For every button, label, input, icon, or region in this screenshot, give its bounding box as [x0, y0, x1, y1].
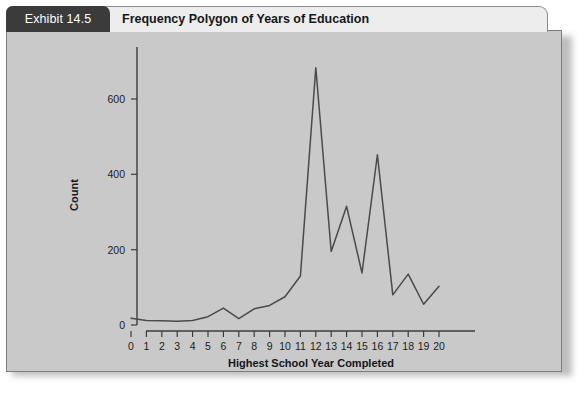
x-axis-tick-label: 10 [279, 340, 291, 352]
x-axis-tick-label: 17 [387, 340, 399, 352]
y-axis-tick-label: 0 [119, 319, 125, 331]
exhibit-number-tab: Exhibit 14.5 [6, 6, 110, 32]
x-axis-tick-label: 8 [251, 340, 257, 352]
exhibit-number-label: Exhibit 14.5 [25, 12, 92, 26]
x-axis-tick-label: 5 [205, 340, 211, 352]
x-axis-title: Highest School Year Completed [228, 357, 394, 369]
x-axis-tick-label: 14 [341, 340, 353, 352]
x-axis-tick-label: 9 [267, 340, 273, 352]
x-axis-tick-label: 16 [372, 340, 384, 352]
x-axis-tick-label: 3 [174, 340, 180, 352]
x-axis-tick-label: 20 [433, 340, 445, 352]
x-axis-tick-label: 1 [143, 340, 149, 352]
x-axis-tick-label: 13 [325, 340, 337, 352]
x-axis-tick-label: 19 [418, 340, 430, 352]
y-axis-title: Count [68, 179, 80, 211]
x-axis-tick-label: 0 [128, 340, 134, 352]
x-axis-tick-label: 2 [159, 340, 165, 352]
y-axis-tick-label: 400 [107, 168, 125, 180]
y-axis-tick-label: 200 [107, 244, 125, 256]
x-axis-group: 01234567891011121314151617181920 Highest… [128, 331, 475, 369]
y-axis-ticks: 0200400600 [107, 93, 137, 331]
x-axis-tick-label: 15 [356, 340, 368, 352]
frequency-polygon-line [131, 68, 439, 321]
y-axis-group: 0200400600 Count [68, 47, 137, 331]
frequency-polygon-chart: 0200400600 Count 01234567891011121314151… [6, 30, 562, 372]
x-axis-tick-label: 12 [310, 340, 322, 352]
exhibit-title: Frequency Polygon of Years of Education [122, 6, 369, 32]
y-axis-tick-label: 600 [107, 93, 125, 105]
x-axis-tick-label: 6 [220, 340, 226, 352]
chart-plot-area: 0200400600 Count 01234567891011121314151… [6, 30, 562, 372]
x-axis-tick-label: 4 [190, 340, 196, 352]
exhibit-figure: Exhibit 14.5 Frequency Polygon of Years … [0, 0, 579, 405]
x-axis-ticks: 01234567891011121314151617181920 [128, 331, 445, 352]
x-axis-tick-label: 18 [402, 340, 414, 352]
x-axis-tick-label: 7 [236, 340, 242, 352]
x-axis-tick-label: 11 [295, 340, 306, 352]
